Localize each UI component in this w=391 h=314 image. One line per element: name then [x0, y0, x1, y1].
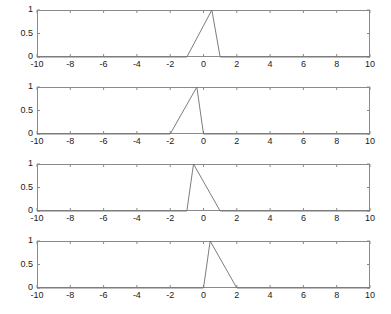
xtick-label: -2: [155, 60, 185, 69]
xtick-label: -6: [89, 137, 119, 146]
xtick-label: 8: [322, 60, 352, 69]
xtick-label: -8: [55, 291, 85, 300]
plot-canvas-3: [37, 164, 370, 211]
xtick-label: 6: [288, 60, 318, 69]
xtick-label: 10: [355, 60, 385, 69]
tick-marks-4: [37, 241, 370, 288]
xtick-label: 8: [322, 214, 352, 223]
ytick-label: 0.5: [3, 260, 33, 269]
xtick-label: 4: [255, 60, 285, 69]
ytick-label: 1: [3, 159, 33, 168]
ytick-label: 0.5: [3, 183, 33, 192]
xtick-label: -6: [89, 291, 119, 300]
xtick-label: -6: [89, 60, 119, 69]
ytick-label: 1: [3, 82, 33, 91]
xtick-label: 0: [189, 137, 219, 146]
ytick-label: 1: [3, 5, 33, 14]
tick-marks-3: [37, 164, 370, 211]
tick-marks-2: [37, 87, 370, 134]
xtick-label: 6: [288, 214, 318, 223]
xtick-label: 2: [222, 214, 252, 223]
xtick-label: 6: [288, 137, 318, 146]
xtick-label: 4: [255, 291, 285, 300]
plot-canvas-2: [37, 87, 370, 134]
xtick-label: 4: [255, 137, 285, 146]
xtick-label: 10: [355, 214, 385, 223]
xtick-label: -10: [22, 291, 52, 300]
xtick-label: -8: [55, 214, 85, 223]
xtick-label: -4: [122, 214, 152, 223]
xtick-label: 8: [322, 137, 352, 146]
xtick-label: -10: [22, 60, 52, 69]
xtick-label: -4: [122, 137, 152, 146]
xtick-label: -10: [22, 214, 52, 223]
xtick-label: 4: [255, 214, 285, 223]
data-line-2-1: [37, 87, 370, 134]
plot-canvas-1: [37, 10, 370, 57]
xtick-label: -8: [55, 60, 85, 69]
plot-canvas-4: [37, 241, 370, 288]
data-line-4-1: [37, 241, 370, 288]
xtick-label: 10: [355, 291, 385, 300]
xtick-label: 2: [222, 137, 252, 146]
xtick-label: 0: [189, 60, 219, 69]
xtick-label: 2: [222, 291, 252, 300]
xtick-label: 10: [355, 137, 385, 146]
matlab-figure: 00.51-10-8-6-4-2024681000.51-10-8-6-4-20…: [0, 0, 391, 314]
ytick-label: 1: [3, 236, 33, 245]
ytick-label: 0.5: [3, 106, 33, 115]
xtick-label: -10: [22, 137, 52, 146]
xtick-label: -8: [55, 137, 85, 146]
xtick-label: -4: [122, 291, 152, 300]
xtick-label: -2: [155, 291, 185, 300]
data-line-1-1: [37, 10, 370, 57]
xtick-label: 0: [189, 214, 219, 223]
xtick-label: -6: [89, 214, 119, 223]
tick-marks-1: [37, 10, 370, 57]
xtick-label: 8: [322, 291, 352, 300]
xtick-label: -2: [155, 137, 185, 146]
xtick-label: 0: [189, 291, 219, 300]
xtick-label: 6: [288, 291, 318, 300]
xtick-label: -4: [122, 60, 152, 69]
xtick-label: 2: [222, 60, 252, 69]
data-line-3-1: [37, 164, 370, 211]
xtick-label: -2: [155, 214, 185, 223]
ytick-label: 0.5: [3, 29, 33, 38]
